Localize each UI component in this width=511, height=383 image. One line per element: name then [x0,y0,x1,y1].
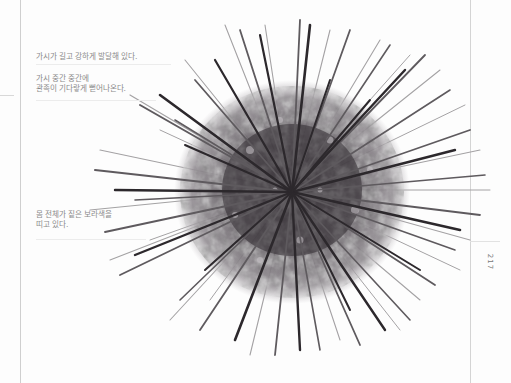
page-number-tick [470,241,500,242]
spines-front [115,25,460,350]
annotation-separator [36,239,146,240]
annotation-spines: 가시가 길고 강하게 발달해 있다. [36,52,137,62]
annotation-separator [36,100,156,101]
spines-mid [95,20,485,355]
right-margin-rule [470,0,471,383]
annotation-tube-feet: 가시 중간 중간에 관족이 기다랗게 뻗어나온다. [36,74,126,94]
urchin-body [174,80,410,304]
book-page: 가시가 길고 강하게 발달해 있다. 가시 중간 중간에 관족이 기다랗게 뻗어… [0,0,511,383]
annotation-body-color-line-2: 띠고 있다. [36,220,112,230]
left-edge-tick [0,95,14,96]
annotation-spines-line-1: 가시가 길고 강하게 발달해 있다. [36,52,137,62]
annotation-separator [36,64,171,65]
annotation-tube-feet-line-2: 관족이 기다랗게 뻗어나온다. [36,84,126,94]
annotation-body-color: 몸 전체가 짙은 보라색을 띠고 있다. [36,210,112,230]
spines-back [90,25,490,355]
annotation-body-color-line-1: 몸 전체가 짙은 보라색을 [36,210,112,220]
annotation-tube-feet-line-1: 가시 중간 중간에 [36,74,126,84]
page-number: 217 [480,252,500,272]
left-margin-rule [20,0,21,383]
